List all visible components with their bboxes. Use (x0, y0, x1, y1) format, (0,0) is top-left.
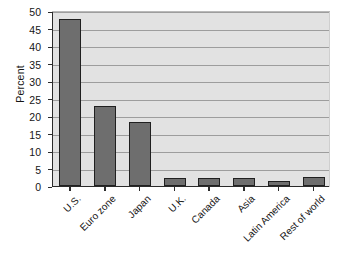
gridline (53, 30, 330, 31)
plot-area (52, 12, 330, 187)
y-tick-label: 5 (35, 164, 41, 176)
x-tick-mark (278, 187, 279, 191)
bar (303, 177, 325, 186)
gridline (53, 82, 330, 83)
bar (94, 106, 116, 187)
bar (198, 178, 220, 186)
x-tick-mark (208, 187, 209, 191)
x-tick-mark (243, 187, 244, 191)
bar-chart-figure: Percent 05101520253035404550 U.S.Euro zo… (0, 0, 359, 260)
x-tick-mark (104, 187, 105, 191)
y-tick-label: 30 (29, 76, 41, 88)
y-tick-label: 0 (35, 181, 41, 193)
x-tick-mark (174, 187, 175, 191)
cut-off-caption (352, 148, 359, 210)
gridline (53, 47, 330, 48)
x-tick-mark (69, 187, 70, 191)
bar (164, 178, 186, 186)
y-tick-label: 35 (29, 59, 41, 71)
gridline (53, 100, 330, 101)
bar (129, 122, 151, 186)
y-tick-label: 25 (29, 94, 41, 106)
gridline (53, 12, 330, 13)
y-tick-label: 20 (29, 111, 41, 123)
plot-right-border (329, 12, 330, 187)
gridline (53, 65, 330, 66)
bar (59, 19, 81, 186)
x-tick-mark (139, 187, 140, 191)
y-tick-label: 50 (29, 6, 41, 18)
y-tick-label: 45 (29, 24, 41, 36)
bar (268, 181, 290, 186)
x-tick-label: U.S. (0, 193, 83, 260)
y-tick-label: 15 (29, 129, 41, 141)
bar (233, 178, 255, 186)
y-axis: 05101520253035404550 (0, 12, 48, 187)
x-tick-mark (313, 187, 314, 191)
y-tick-label: 40 (29, 41, 41, 53)
y-tick-label: 10 (29, 146, 41, 158)
